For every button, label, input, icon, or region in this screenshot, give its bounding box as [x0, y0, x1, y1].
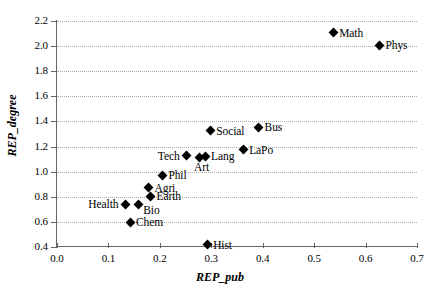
data-point-label: Bio [143, 204, 159, 216]
y-tick-mark [51, 197, 57, 198]
x-tick-mark [366, 243, 367, 248]
data-point-label: Art [194, 161, 209, 173]
y-tick-label: 2.0 [8, 40, 48, 51]
x-tick-mark [314, 243, 315, 248]
y-tick-mark [51, 121, 57, 122]
data-point-label: Chem [136, 216, 163, 228]
y-tick-label: 0.4 [8, 241, 48, 252]
gridline [57, 71, 417, 72]
x-tick-label: 0.2 [140, 252, 180, 264]
y-tick-mark [51, 96, 57, 97]
data-point-label: Health [88, 198, 118, 210]
x-tick-mark [57, 243, 58, 248]
y-axis-line [56, 20, 57, 248]
x-tick-label: 0.3 [191, 252, 231, 264]
scatter-chart: 0.40.60.81.01.21.41.61.82.02.2 0.00.10.2… [0, 0, 440, 292]
y-tick-mark [51, 21, 57, 22]
gridline [57, 147, 417, 148]
x-tick-mark [108, 243, 109, 248]
x-tick-label: 0.6 [346, 252, 386, 264]
x-tick-mark [263, 243, 264, 248]
y-tick-mark [51, 147, 57, 148]
gridline [57, 21, 417, 22]
y-tick-label: 0.6 [8, 216, 48, 227]
x-tick-mark [417, 243, 418, 248]
data-point-label: Tech [158, 150, 180, 162]
y-tick-label: 2.2 [8, 15, 48, 26]
data-point-label: Phil [168, 169, 186, 181]
x-axis-line [56, 246, 418, 247]
x-axis-title: REP_pub [0, 270, 440, 285]
data-point-label: Bus [265, 121, 283, 133]
x-tick-label: 0.1 [88, 252, 128, 264]
data-point-label: Lang [211, 150, 234, 162]
x-tick-label: 0.5 [294, 252, 334, 264]
data-point-label: Social [216, 125, 244, 137]
gridline [57, 96, 417, 97]
y-tick-label: 0.8 [8, 191, 48, 202]
y-tick-mark [51, 71, 57, 72]
data-point-label: Phys [385, 39, 407, 51]
y-tick-mark [51, 222, 57, 223]
gridline [57, 222, 417, 223]
y-axis-title: REP_degree [5, 76, 20, 176]
gridline [57, 46, 417, 47]
gridline [57, 172, 417, 173]
y-tick-mark [51, 172, 57, 173]
y-tick-mark [51, 46, 57, 47]
x-tick-label: 0.0 [37, 252, 77, 264]
data-point-label: Earth [157, 190, 181, 202]
x-tick-mark [160, 243, 161, 248]
data-point-label: Math [339, 27, 363, 39]
gridline [57, 121, 417, 122]
x-tick-label: 0.4 [243, 252, 283, 264]
data-point-label: Hist [213, 239, 232, 251]
x-tick-label: 0.7 [397, 252, 437, 264]
data-point-label: LaPo [249, 144, 273, 156]
